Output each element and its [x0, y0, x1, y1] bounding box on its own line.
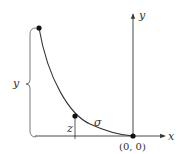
- mid-point: [72, 113, 77, 118]
- diagram: y x (0, 0) y z σ: [0, 0, 178, 154]
- height-brace: [26, 28, 36, 137]
- sigma-label: σ: [94, 116, 102, 129]
- z-label: z: [66, 122, 73, 135]
- origin-point: [130, 133, 135, 138]
- curve-sigma: [39, 28, 133, 136]
- origin-label: (0, 0): [119, 141, 146, 152]
- height-label: y: [12, 77, 20, 90]
- x-axis-label: x: [168, 130, 175, 143]
- y-axis-label: y: [138, 9, 146, 22]
- top-point: [36, 25, 41, 30]
